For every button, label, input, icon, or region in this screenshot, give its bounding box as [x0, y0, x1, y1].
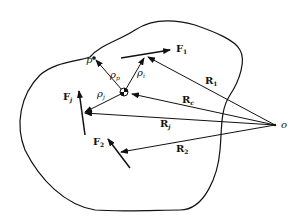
Fj-force-line	[79, 91, 85, 135]
point-p-dot	[92, 56, 96, 60]
R2-vector	[121, 125, 275, 152]
Fj-label: Fj	[63, 91, 73, 104]
Rc-label: Rc	[182, 94, 194, 106]
origin-label: o	[281, 119, 287, 130]
origin-dot	[274, 124, 276, 126]
rho-j-label: ρj	[96, 88, 105, 101]
F1-force-line	[121, 50, 170, 58]
F2-force-line	[108, 139, 130, 168]
body-diagram: o p F1 Fj F2 R1 Rc Rj R2 ρp ρi ρj	[0, 0, 295, 223]
center-of-mass-icon	[120, 88, 128, 96]
R1-label: R1	[205, 75, 218, 87]
point-p-label: p	[86, 54, 93, 65]
F2-label: F2	[93, 136, 104, 148]
F1-label: F1	[176, 43, 187, 55]
Rj-label: Rj	[160, 118, 171, 131]
rho-i-label: ρi	[136, 67, 145, 79]
R1-vector	[148, 57, 275, 125]
R2-label: R2	[176, 143, 189, 155]
rho-p-label: ρp	[109, 69, 120, 82]
